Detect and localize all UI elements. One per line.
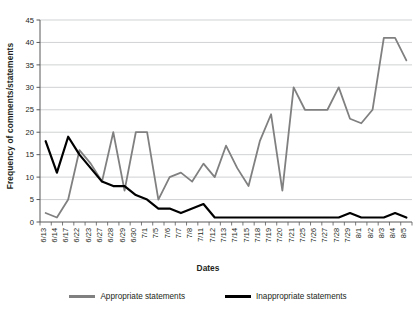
legend-item-appropriate: Appropriate statements (69, 292, 185, 301)
svg-text:7/13: 7/13 (219, 228, 228, 242)
svg-text:6/13: 6/13 (39, 228, 48, 242)
svg-text:6/14: 6/14 (50, 228, 59, 242)
legend-swatch-appropriate (69, 295, 95, 298)
svg-text:6/29: 6/29 (118, 228, 127, 242)
svg-text:7/7: 7/7 (174, 228, 183, 238)
y-axis-ticks: 051015202530354045 (26, 16, 40, 227)
svg-text:6/30: 6/30 (129, 228, 138, 242)
svg-text:25: 25 (26, 105, 34, 114)
legend-label-inappropriate: Inappropriate statements (256, 292, 347, 301)
x-axis-title: Dates (0, 263, 416, 273)
x-axis-tick-labels: 6/136/146/176/226/236/276/286/296/307/17… (39, 228, 409, 242)
svg-text:5: 5 (30, 195, 34, 204)
svg-text:6/22: 6/22 (72, 228, 81, 242)
legend-label-appropriate: Appropriate statements (100, 292, 185, 301)
svg-text:7/12: 7/12 (208, 228, 217, 242)
x-axis-ticks (40, 222, 412, 226)
svg-text:7/29: 7/29 (343, 228, 352, 242)
chart-container: Frequency of comments/statements 0510152… (0, 0, 416, 319)
svg-text:6/23: 6/23 (84, 228, 93, 242)
svg-text:15: 15 (26, 150, 34, 159)
svg-text:7/21: 7/21 (287, 228, 296, 242)
svg-text:8/5: 8/5 (399, 228, 408, 238)
svg-text:6/17: 6/17 (61, 228, 70, 242)
svg-text:7/18: 7/18 (253, 228, 262, 242)
svg-text:6/27: 6/27 (95, 228, 104, 242)
svg-text:7/11: 7/11 (196, 228, 205, 242)
svg-text:8/4: 8/4 (388, 228, 397, 238)
svg-text:7/19: 7/19 (264, 228, 273, 242)
svg-text:7/20: 7/20 (275, 228, 284, 242)
svg-text:8/1: 8/1 (354, 228, 363, 238)
svg-text:7/25: 7/25 (298, 228, 307, 242)
svg-text:7/27: 7/27 (320, 228, 329, 242)
svg-text:7/6: 7/6 (163, 228, 172, 238)
svg-text:8/2: 8/2 (366, 228, 375, 238)
chart-legend: Appropriate statements Inappropriate sta… (0, 292, 416, 301)
svg-text:7/5: 7/5 (151, 228, 160, 238)
svg-text:7/15: 7/15 (242, 228, 251, 242)
svg-text:6/28: 6/28 (106, 228, 115, 242)
svg-text:7/26: 7/26 (309, 228, 318, 242)
svg-text:30: 30 (26, 83, 34, 92)
svg-text:7/14: 7/14 (230, 228, 239, 242)
legend-item-inappropriate: Inappropriate statements (225, 292, 347, 301)
svg-text:8/3: 8/3 (377, 228, 386, 238)
svg-text:10: 10 (26, 173, 34, 182)
svg-text:45: 45 (26, 16, 34, 25)
svg-text:40: 40 (26, 38, 34, 47)
svg-text:7/8: 7/8 (185, 228, 194, 238)
svg-text:7/28: 7/28 (332, 228, 341, 242)
svg-text:0: 0 (30, 218, 34, 227)
svg-text:20: 20 (26, 128, 34, 137)
legend-swatch-inappropriate (225, 295, 251, 298)
svg-text:35: 35 (26, 61, 34, 70)
svg-text:7/1: 7/1 (140, 228, 149, 238)
